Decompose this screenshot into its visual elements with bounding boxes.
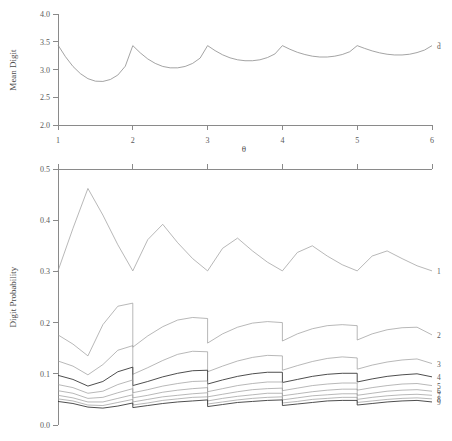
x-tick-label: 4 — [280, 136, 284, 145]
y-tick-label: 4.0 — [40, 10, 50, 19]
y-tick-label: 3.0 — [40, 66, 50, 75]
y-tick-label: 0.3 — [40, 267, 50, 276]
series-curve-digit-4 — [58, 367, 432, 386]
y-axis-title: Mean Digit — [8, 49, 18, 91]
x-tick-label: 5 — [355, 136, 359, 145]
series-curve-digit-2 — [58, 303, 432, 356]
series-curve-digit-3 — [58, 346, 432, 375]
y-tick-label: 0.4 — [40, 216, 50, 225]
x-tick-label: 1 — [56, 136, 60, 145]
series-curve-d̄ — [58, 45, 432, 81]
series-label-d̄: d̄ — [437, 42, 441, 51]
series-label-digit-2: 2 — [437, 331, 441, 340]
y-tick-label: 2.0 — [40, 121, 50, 130]
x-tick-label: 6 — [430, 136, 434, 145]
series-label-digit-3: 3 — [437, 360, 441, 369]
series-curve-digit-1 — [58, 188, 432, 270]
y-tick-label: 0.5 — [40, 165, 50, 174]
y-tick-label: 3.5 — [40, 38, 50, 47]
y-tick-label: 0.0 — [40, 421, 50, 430]
series-curve-digit-9 — [58, 400, 432, 408]
x-axis-title: θ — [242, 144, 246, 154]
y-tick-label: 2.5 — [40, 93, 50, 102]
series-curve-digit-5 — [58, 380, 432, 393]
benford-digit-plot: 2.02.53.03.54.0123456θMean Digitd̄0.00.1… — [0, 0, 452, 441]
x-tick-label: 2 — [131, 136, 135, 145]
y-axis-title: Digit Probability — [8, 266, 18, 327]
series-label-digit-4: 4 — [437, 373, 441, 382]
series-label-digit-1: 1 — [437, 267, 441, 276]
series-curve-digit-8 — [58, 397, 432, 406]
y-tick-label: 0.2 — [40, 319, 50, 328]
mean-digit-panel: 2.02.53.03.54.0123456θMean Digitd̄ — [8, 10, 441, 154]
figure-container: 2.02.53.03.54.0123456θMean Digitd̄0.00.1… — [0, 0, 452, 441]
digit-probability-panel: 0.00.10.20.30.40.5Digit Probability12345… — [8, 164, 441, 430]
series-label-digit-9: 9 — [437, 398, 441, 407]
y-tick-label: 0.1 — [40, 370, 50, 379]
x-tick-label: 3 — [206, 136, 210, 145]
